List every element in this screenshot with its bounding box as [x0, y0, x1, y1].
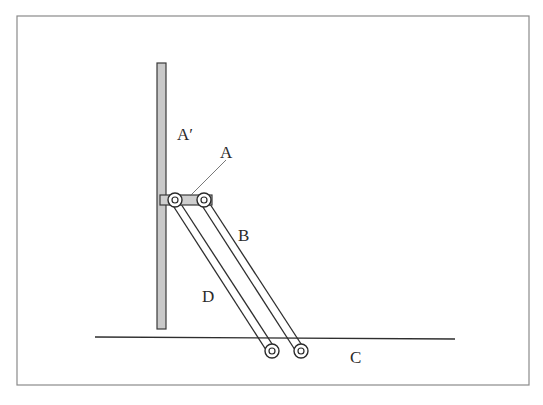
label-c: C — [350, 348, 361, 367]
linkage-diagram: A′ A B D C — [0, 0, 543, 405]
label-a-prime: A′ — [177, 125, 193, 144]
diagram-frame — [17, 16, 529, 385]
label-a: A — [220, 143, 233, 162]
pivot-bottom-b — [294, 344, 308, 358]
label-b: B — [238, 226, 249, 245]
pivot-top-b — [197, 193, 211, 207]
pivot-bottom-d — [265, 344, 279, 358]
pivot-top-d — [168, 193, 182, 207]
label-d: D — [202, 287, 214, 306]
